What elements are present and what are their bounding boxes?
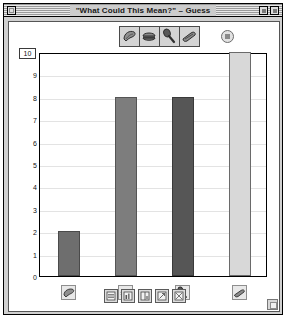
title-bar-buttons — [259, 6, 279, 15]
y-tick-label: 7 — [15, 117, 37, 124]
chart-view-button[interactable] — [121, 289, 135, 303]
palette-item-shoe[interactable] — [180, 27, 199, 46]
settings-icon — [173, 290, 185, 302]
y-tick-label: 4 — [15, 184, 37, 191]
window-content: 10 9876543210 — [8, 21, 280, 312]
window-title: "What Could This Mean?" – Guess — [4, 4, 282, 17]
bar[interactable] — [229, 52, 251, 276]
burger-icon — [141, 28, 158, 45]
bar[interactable] — [115, 97, 137, 276]
tool-palette-row — [9, 26, 279, 48]
shell-icon — [121, 28, 138, 45]
y-axis-labels: 9876543210 — [15, 53, 37, 277]
bar[interactable] — [172, 97, 194, 276]
palette-item-burger[interactable] — [140, 27, 160, 46]
list-view-button[interactable] — [104, 289, 118, 303]
spoon-icon — [161, 28, 178, 45]
help-icon[interactable] — [221, 30, 234, 43]
list-view-icon — [105, 290, 117, 302]
y-tick-label: 3 — [15, 207, 37, 214]
chart-view-icon — [122, 290, 134, 302]
y-tick-label: 1 — [15, 252, 37, 259]
y-tick-label: 9 — [15, 72, 37, 79]
window-title-text: "What Could This Mean?" – Guess — [70, 5, 217, 17]
collapse-box-icon[interactable] — [270, 6, 279, 15]
settings-button[interactable] — [172, 289, 186, 303]
grow-box-icon[interactable] — [267, 299, 278, 310]
split-view-button[interactable] — [138, 289, 152, 303]
y-tick-label: 5 — [15, 162, 37, 169]
zoom-box-icon[interactable] — [259, 6, 268, 15]
y-tick-label: 6 — [15, 140, 37, 147]
application-window: "What Could This Mean?" – Guess — [3, 3, 283, 315]
tool-palette — [119, 26, 200, 47]
palette-item-shell[interactable] — [120, 27, 140, 46]
export-icon — [156, 290, 168, 302]
plot-canvas — [39, 53, 267, 277]
bar-series — [40, 54, 266, 276]
palette-item-spoon[interactable] — [160, 27, 180, 46]
title-bar[interactable]: "What Could This Mean?" – Guess — [4, 4, 282, 17]
shoe-icon — [181, 28, 198, 45]
y-tick-label: 2 — [15, 229, 37, 236]
bottom-toolbar — [9, 286, 281, 306]
export-button[interactable] — [155, 289, 169, 303]
bar[interactable] — [58, 231, 80, 276]
y-tick-label: 8 — [15, 95, 37, 102]
split-view-icon — [139, 290, 151, 302]
help-glyph — [225, 34, 230, 39]
y-tick-label: 0 — [15, 274, 37, 281]
chart-area: 10 9876543210 — [9, 48, 281, 288]
